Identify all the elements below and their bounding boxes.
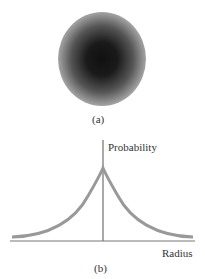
y-axis-label: Probability bbox=[108, 141, 157, 153]
x-axis-label: Radius bbox=[162, 247, 193, 259]
probability-plot bbox=[0, 0, 205, 279]
caption-b: (b) bbox=[94, 262, 107, 274]
